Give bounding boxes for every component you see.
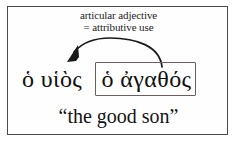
greek-grammar-figure: articular adjective = attributive use ὁ … xyxy=(0,0,237,143)
greek-noun-phrase: ὁ υἱὸς xyxy=(22,66,82,93)
annotation-line-2: = attributive use xyxy=(0,22,237,34)
greek-adjective-phrase: ὁ ἀγαθός xyxy=(96,66,197,93)
articular-adjective-box: ὁ ἀγαθός xyxy=(95,62,196,96)
annotation-line-1: articular adjective xyxy=(0,10,237,22)
english-gloss: “the good son” xyxy=(0,105,237,128)
annotation-label: articular adjective = attributive use xyxy=(0,10,237,33)
greek-clause-row: ὁ υἱὸς ὁ ἀγαθός xyxy=(0,62,237,102)
